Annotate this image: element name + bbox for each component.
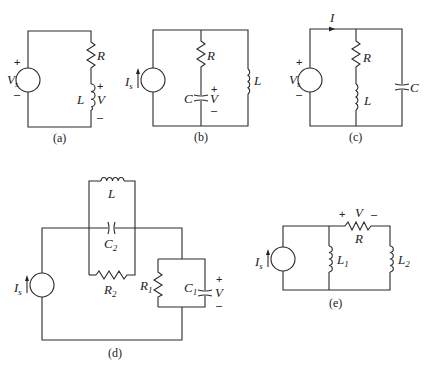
current-source-icon (271, 247, 295, 271)
resistor-label: R (362, 50, 371, 65)
caption-e: (e) (329, 296, 342, 310)
circuit-d: Is L C2 R2 R1 C1 + V – (d) (13, 178, 225, 360)
capacitor-icon (194, 95, 208, 101)
inductor-l1-icon (329, 246, 332, 272)
inductor-icon (248, 69, 250, 94)
current-source-icon (141, 68, 165, 92)
inductor-label: L (107, 186, 115, 201)
inductor-icon (91, 84, 95, 110)
circuit-a: + – Vs R L + V – (a) (7, 31, 107, 145)
plus-sign: + (296, 56, 302, 68)
inductor-l2-label: L2 (397, 252, 410, 269)
caption-d: (d) (108, 346, 122, 360)
capacitor-c1-label: C1 (184, 280, 197, 297)
inductor-l1-label: L1 (336, 252, 349, 269)
caption-a: (a) (53, 131, 66, 145)
resistor-icon (345, 222, 373, 230)
capacitor-icon (395, 84, 409, 90)
resistor-icon (96, 271, 131, 279)
voltage-label: V (215, 285, 225, 300)
circuit-e: Is + V – R L1 L2 (e) (254, 205, 410, 310)
circuit-b: Is R C + V – L (b) (124, 30, 261, 144)
inductor-label: L (76, 92, 84, 107)
capacitor-c2-label: C2 (104, 236, 118, 253)
minus-sign: – (296, 88, 303, 100)
current-source-icon (30, 273, 54, 297)
resistor-icon (197, 38, 205, 68)
minus-sign: – (97, 111, 104, 123)
caption-c: (c) (349, 130, 362, 144)
resistor-r1-label: R1 (139, 278, 152, 295)
plus-sign: + (14, 56, 20, 68)
plus-sign: + (216, 273, 222, 285)
capacitor-icon (108, 222, 115, 234)
circuit-figure: + – Vs R L + V – (a) Is R C + V – (0, 0, 431, 370)
caption-b: (b) (194, 130, 208, 144)
plus-sign: + (339, 208, 345, 220)
circuit-c: I + – Vs R L C (c) (289, 10, 419, 144)
minus-sign: – (211, 104, 218, 116)
inductor-label: L (363, 93, 371, 108)
resistor-label: R (96, 48, 105, 63)
source-label: Is (13, 280, 22, 297)
plus-sign: + (97, 80, 103, 92)
inductor-label: L (253, 73, 261, 88)
voltage-label: V (355, 205, 365, 220)
resistor-icon (154, 270, 162, 298)
capacitor-label: C (184, 91, 193, 106)
minus-sign: – (216, 299, 223, 311)
inductor-icon (356, 84, 358, 110)
voltage-label: V (97, 92, 107, 107)
capacitor-icon (198, 290, 212, 296)
resistor-icon (352, 38, 360, 68)
resistor-r2-label: R2 (103, 282, 117, 299)
source-label: Is (254, 254, 263, 271)
resistor-label: R (354, 231, 363, 246)
current-arrow-icon (329, 27, 335, 32)
resistor-icon (87, 39, 95, 70)
inductor-icon (101, 178, 124, 181)
source-label: Is (124, 74, 133, 91)
minus-sign: – (371, 208, 378, 220)
resistor-label: R (206, 48, 215, 63)
current-label: I (329, 10, 335, 25)
capacitor-label: C (410, 80, 419, 95)
inductor-l2-icon (390, 246, 393, 272)
minus-sign: – (14, 88, 21, 100)
